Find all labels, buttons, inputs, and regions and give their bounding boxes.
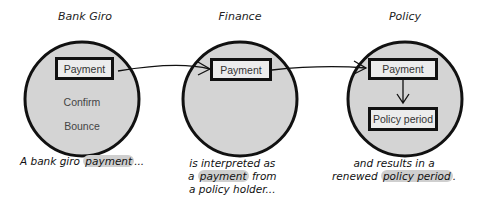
policy-payment-box: Payment <box>368 58 438 80</box>
caption-highlight: payment <box>198 170 249 182</box>
caption-highlight: payment <box>83 155 134 167</box>
bank-giro-payment-box: Payment <box>55 57 114 80</box>
policy-period-box: Policy period <box>368 107 438 131</box>
finance-caption: is interpreted as a payment from a polic… <box>188 157 277 196</box>
caption-line: and results in a <box>332 157 456 170</box>
caption-line: a payment from <box>188 170 277 183</box>
caption-text: ... <box>134 155 144 167</box>
caption-line: a policy holder... <box>188 183 277 196</box>
bank-giro-confirm-label: Confirm <box>42 96 122 108</box>
context-title-policy: Policy <box>355 10 455 23</box>
caption-highlight: policy period <box>381 170 453 182</box>
caption-text: . <box>453 170 456 182</box>
context-title-bank-giro: Bank Giro <box>35 10 135 23</box>
caption-text: from <box>249 170 277 182</box>
caption-text: A bank giro <box>20 155 83 167</box>
context-title-finance: Finance <box>190 10 290 23</box>
caption-line: is interpreted as <box>188 157 277 170</box>
bank-giro-caption: A bank giro payment... <box>20 155 144 168</box>
bank-giro-bounce-label: Bounce <box>42 120 122 132</box>
caption-line: renewed policy period. <box>332 170 456 183</box>
policy-caption: and results in a renewed policy period. <box>332 157 456 183</box>
caption-text: a <box>188 170 198 182</box>
finance-payment-box: Payment <box>210 58 272 81</box>
caption-text: renewed <box>332 170 381 182</box>
